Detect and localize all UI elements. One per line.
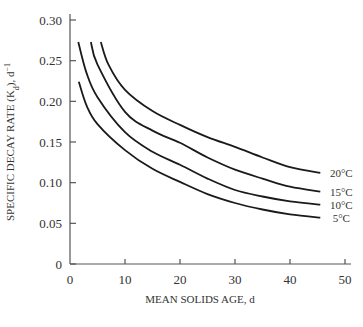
y-tick-label: 0.10 (39, 175, 62, 190)
curve-20c (101, 42, 320, 173)
curve-10c (78, 42, 320, 205)
y-tick-label: 0.15 (39, 135, 62, 150)
x-tick-label: 20 (174, 272, 187, 287)
x-tick-label: 0 (67, 272, 74, 287)
x-tick-label: 30 (229, 272, 242, 287)
y-tick-label: 0.05 (39, 216, 62, 231)
decay-rate-chart: 20°C15°C10°C5°C 00.050.100.150.200.250.3… (0, 0, 363, 327)
y-tick-label: 0.25 (39, 53, 62, 68)
series-label: 10°C (330, 199, 353, 211)
x-tick-label: 10 (119, 272, 132, 287)
y-tick-label: 0.20 (39, 94, 62, 109)
x-axis-title: MEAN SOLIDS AGE, d (145, 293, 255, 305)
series-label: 15°C (330, 186, 353, 198)
curve-15c (91, 42, 320, 192)
y-tick-label: 0 (56, 257, 63, 272)
x-axis-ticks: 01020304050 (67, 259, 352, 287)
plot-area: 20°C15°C10°C5°C (78, 42, 352, 224)
y-tick-label: 0.30 (39, 13, 62, 28)
x-tick-label: 40 (284, 272, 297, 287)
series-label: 5°C (333, 212, 350, 224)
curve-5c (79, 82, 320, 218)
y-axis-title: SPECIFIC DECAY RATE (Kd), d−1 (3, 63, 21, 221)
series-label: 20°C (330, 167, 353, 179)
x-tick-label: 50 (339, 272, 352, 287)
